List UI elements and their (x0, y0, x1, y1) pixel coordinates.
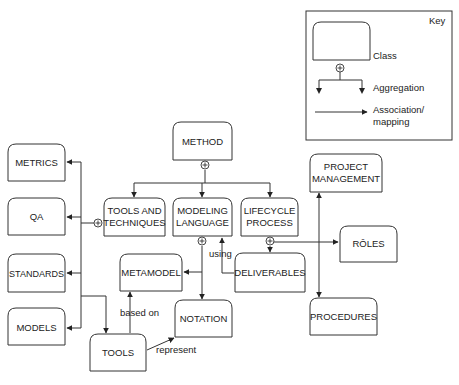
node-label: RÔLES (352, 238, 384, 249)
node-label: TOOLS (102, 347, 134, 358)
node-label: NOTATION (180, 313, 228, 324)
aggregation-plus-icon (94, 219, 102, 227)
node-label: METHOD (182, 136, 223, 147)
node-deliverables[interactable]: DELIVERABLES (234, 253, 305, 292)
edge-label-using: using (209, 248, 232, 259)
edges: using based on represent (67, 162, 338, 355)
node-label: MANAGEMENT (312, 173, 380, 184)
node-tools[interactable]: TOOLS (90, 334, 146, 371)
edge-label-represent: represent (156, 344, 196, 355)
node-label: METAMODEL (121, 267, 180, 278)
legend-title: Key (429, 15, 446, 26)
node-notation[interactable]: NOTATION (175, 300, 232, 337)
node-label: QA (30, 211, 44, 222)
node-modeling-language[interactable]: MODELING LANGUAGE (173, 198, 232, 236)
node-label: METRICS (15, 157, 58, 168)
legend-key: Key Class Aggregation Association/ mappi… (306, 11, 452, 140)
node-project-management[interactable]: PROJECT MANAGEMENT (310, 154, 382, 192)
node-label: PROCEDURES (310, 311, 377, 322)
legend-association-label-2: mapping (373, 116, 409, 127)
edge-label-based-on: based on (120, 307, 159, 318)
node-label: STANDARDS (9, 269, 64, 279)
legend-association-label: Association/ (373, 104, 425, 115)
node-roles[interactable]: RÔLES (340, 226, 397, 262)
node-label: TOOLS AND (107, 205, 161, 216)
aggregation-plus-icon (266, 237, 274, 245)
node-metamodel[interactable]: METAMODEL (120, 254, 182, 291)
node-method[interactable]: METHOD (173, 122, 232, 160)
method-diagram: Key Class Aggregation Association/ mappi… (0, 0, 459, 385)
aggregation-plus-icon (201, 161, 209, 169)
node-label: PROJECT (324, 161, 369, 172)
aggregation-plus-icon (198, 237, 206, 245)
node-label: TECHNIQUES (103, 217, 165, 228)
node-lifecycle-process[interactable]: LIFECYCLE PROCESS (241, 198, 298, 236)
legend-aggregation-label: Aggregation (373, 82, 424, 93)
node-label: MODELING (177, 205, 228, 216)
legend-aggregation-plus-icon (336, 64, 344, 72)
node-qa[interactable]: QA (8, 198, 65, 235)
node-label: MODELS (16, 322, 56, 333)
node-label: LANGUAGE (176, 217, 229, 228)
node-models[interactable]: MODELS (8, 308, 65, 345)
node-tools-and-techniques[interactable]: TOOLS AND TECHNIQUES (103, 198, 165, 236)
node-label: PROCESS (246, 217, 292, 228)
node-procedures[interactable]: PROCEDURES (310, 298, 377, 335)
node-label: LIFECYCLE (244, 205, 296, 216)
node-label: DELIVERABLES (234, 267, 305, 278)
node-metrics[interactable]: METRICS (8, 144, 65, 181)
node-standards[interactable]: STANDARDS (8, 254, 65, 292)
legend-class-label: Class (373, 50, 397, 61)
